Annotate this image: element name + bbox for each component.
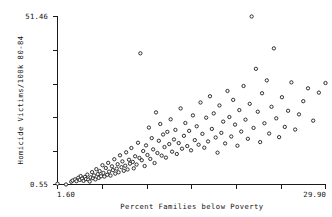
data-point: [116, 163, 119, 166]
data-point: [163, 145, 166, 148]
data-point: [161, 133, 164, 136]
data-point: [180, 147, 183, 150]
data-point: [125, 151, 128, 154]
data-point: [90, 170, 93, 173]
data-point: [252, 126, 255, 129]
data-point: [64, 183, 67, 186]
data-point: [92, 174, 95, 177]
data-point: [254, 67, 257, 70]
data-point: [94, 178, 97, 181]
data-point: [246, 137, 249, 140]
data-point: [121, 160, 124, 163]
data-point: [226, 89, 229, 92]
data-point: [228, 115, 231, 118]
data-point: [95, 168, 98, 171]
data-point: [195, 125, 198, 128]
data-point: [172, 138, 175, 141]
data-point: [187, 129, 190, 132]
x-axis-ticks: [58, 185, 326, 189]
data-point: [286, 109, 289, 112]
data-point: [168, 142, 171, 145]
scatter-plot-figure: 51.46 0.55 1.60 29.90 Percent Families b…: [0, 0, 332, 217]
data-point: [280, 96, 283, 99]
data-point: [114, 172, 117, 175]
data-point: [122, 169, 125, 172]
data-point: [179, 107, 182, 110]
data-point: [107, 170, 110, 173]
data-point: [236, 144, 239, 147]
data-points-layer: [56, 15, 327, 186]
data-point: [283, 125, 286, 128]
data-point: [208, 95, 211, 98]
data-point: [216, 151, 219, 154]
data-point: [268, 132, 271, 135]
data-point: [260, 92, 263, 95]
data-point: [186, 144, 189, 147]
data-point: [248, 102, 251, 105]
data-point: [174, 128, 177, 131]
data-point: [312, 119, 315, 122]
data-point: [232, 98, 235, 101]
data-point: [212, 112, 215, 115]
data-point: [220, 131, 223, 134]
data-point: [306, 87, 309, 90]
data-point: [86, 173, 89, 176]
data-point: [205, 116, 208, 119]
data-point: [206, 140, 209, 143]
y-axis-ticks: [53, 17, 57, 185]
data-point: [130, 146, 133, 149]
data-point: [101, 164, 104, 167]
data-point: [214, 136, 217, 139]
x-axis-min-tick-label: 1.60: [57, 190, 75, 199]
data-point: [272, 47, 275, 50]
data-point: [139, 52, 142, 55]
data-point: [201, 132, 204, 135]
data-point: [210, 127, 213, 130]
x-axis-max-tick-label: 29.90: [303, 190, 326, 199]
data-point: [230, 135, 233, 138]
data-point: [75, 180, 78, 183]
data-point: [259, 140, 262, 143]
data-point: [142, 149, 145, 152]
data-point: [302, 100, 305, 103]
data-point: [177, 141, 180, 144]
data-point: [184, 121, 187, 124]
data-point: [317, 91, 320, 94]
data-point: [164, 156, 167, 159]
data-point: [147, 126, 150, 129]
data-point: [135, 163, 138, 166]
data-point: [191, 114, 194, 117]
data-point: [270, 105, 273, 108]
data-point: [166, 130, 169, 133]
data-point: [144, 144, 147, 147]
data-point: [146, 153, 149, 156]
data-point: [242, 84, 245, 87]
data-point: [275, 117, 278, 120]
data-point: [159, 122, 162, 125]
data-point: [193, 138, 196, 141]
data-point: [170, 150, 173, 153]
x-axis-title: Percent Families below Poverty: [120, 202, 264, 211]
plot-canvas: 51.46 0.55 1.60 29.90 Percent Families b…: [0, 0, 332, 217]
data-point: [124, 164, 127, 167]
data-point: [149, 157, 152, 160]
data-point: [134, 155, 137, 158]
data-point: [233, 123, 236, 126]
data-point: [106, 173, 109, 176]
data-point: [117, 171, 120, 174]
data-point: [290, 81, 293, 84]
data-point: [136, 141, 139, 144]
data-point: [324, 81, 327, 84]
y-axis-title: Homicide Victims/100k 80-84: [16, 36, 25, 165]
data-point: [244, 118, 247, 121]
data-point: [240, 130, 243, 133]
data-point: [175, 152, 178, 155]
data-point: [99, 175, 102, 178]
data-point: [120, 166, 123, 169]
data-point: [297, 113, 300, 116]
data-point: [294, 128, 297, 131]
data-point: [265, 79, 268, 82]
data-point: [197, 143, 200, 146]
data-point: [263, 122, 266, 125]
data-point: [203, 146, 206, 149]
